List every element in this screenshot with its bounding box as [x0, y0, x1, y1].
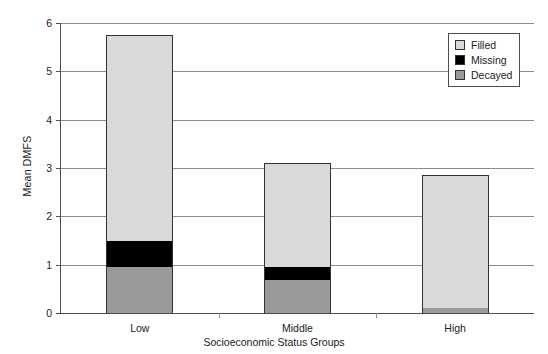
legend-swatch-icon [455, 70, 465, 80]
x-axis-tick [376, 313, 377, 318]
bar-segment-filled[interactable] [423, 176, 488, 308]
bar-segment-decayed[interactable] [107, 267, 172, 313]
x-axis-tick-label: Low [130, 322, 149, 334]
chart-container: Mean DMFS 0123456LowMiddleHigh FilledMis… [0, 0, 548, 354]
legend-item[interactable]: Decayed [455, 69, 512, 81]
bar-segment-filled[interactable] [265, 164, 330, 267]
bar-segment-decayed[interactable] [423, 308, 488, 313]
y-axis-tick [56, 265, 61, 266]
x-axis-title: Socioeconomic Status Groups [0, 336, 548, 348]
stacked-bar[interactable] [264, 163, 331, 313]
y-axis-tick [56, 168, 61, 169]
legend-swatch-icon [455, 55, 465, 65]
chart-legend: FilledMissingDecayed [448, 33, 520, 87]
y-axis-tick [56, 216, 61, 217]
y-axis-tick-label: 1 [46, 259, 52, 271]
y-axis-tick-label: 5 [46, 65, 52, 77]
bar-group [264, 23, 331, 313]
y-axis-tick [56, 23, 61, 24]
x-axis-tick [219, 313, 220, 318]
y-axis-title: Mean DMFS [21, 96, 33, 236]
y-axis-tick [56, 71, 61, 72]
y-axis-tick [56, 120, 61, 121]
bar-segment-decayed[interactable] [265, 280, 330, 313]
bar-segment-missing[interactable] [265, 267, 330, 280]
y-axis-tick-label: 3 [46, 162, 52, 174]
y-axis-tick-label: 2 [46, 210, 52, 222]
y-axis-tick-label: 6 [46, 17, 52, 29]
bar-segment-filled[interactable] [107, 36, 172, 241]
bar-segment-missing[interactable] [107, 241, 172, 267]
legend-label: Decayed [471, 69, 512, 81]
x-axis-tick-label: Middle [282, 322, 313, 334]
legend-item[interactable]: Filled [455, 39, 512, 51]
legend-item[interactable]: Missing [455, 54, 512, 66]
legend-label: Filled [471, 39, 496, 51]
y-axis-tick-label: 0 [46, 307, 52, 319]
stacked-bar[interactable] [422, 175, 489, 313]
legend-swatch-icon [455, 40, 465, 50]
stacked-bar[interactable] [106, 35, 173, 313]
x-axis-tick-label: High [444, 322, 466, 334]
legend-label: Missing [471, 54, 507, 66]
y-axis-tick-label: 4 [46, 114, 52, 126]
y-axis-tick [56, 313, 61, 314]
bar-group [106, 23, 173, 313]
